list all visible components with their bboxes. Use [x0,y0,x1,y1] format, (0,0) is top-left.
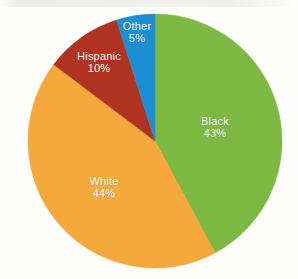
pie-slice-group [28,14,282,268]
pie-chart-figure: Black43%White44%Hispanic10%Other5% [0,0,298,279]
pie-chart-svg [0,0,298,279]
